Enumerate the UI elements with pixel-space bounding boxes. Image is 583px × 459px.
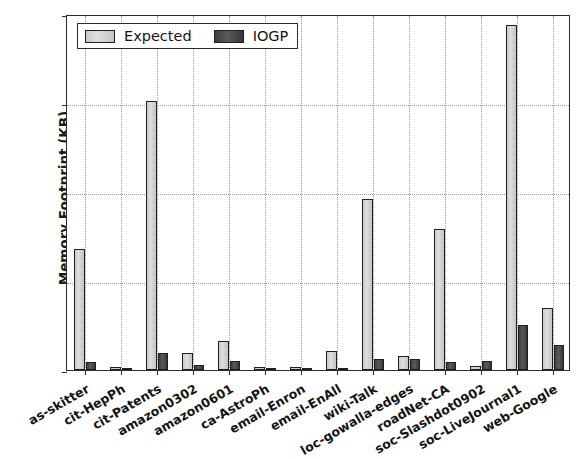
legend-swatch-expected (85, 30, 115, 43)
y-axis-tick (62, 372, 67, 373)
x-axis-tick (337, 370, 338, 375)
x-axis-tick (301, 370, 302, 375)
bar-expected (74, 249, 85, 370)
bar-iogp (86, 362, 97, 370)
bar-expected (146, 101, 157, 370)
gridline-vertical (337, 16, 338, 370)
bar-iogp (338, 368, 349, 370)
bar-iogp (230, 361, 241, 370)
bar-iogp (554, 345, 565, 370)
gridline-vertical (301, 16, 302, 370)
chart-legend: Expected IOGP (77, 23, 298, 49)
x-axis-tick (445, 370, 446, 375)
bar-expected (470, 366, 481, 370)
gridline-vertical (445, 16, 446, 370)
bar-expected (542, 308, 553, 370)
plot-area: Expected IOGP (66, 15, 570, 371)
x-axis-tick (373, 370, 374, 375)
gridline-vertical (229, 16, 230, 370)
bar-iogp (446, 362, 457, 370)
bar-expected (398, 356, 409, 370)
gridline-vertical (157, 16, 158, 370)
x-axis-tick (409, 370, 410, 375)
bar-iogp (158, 353, 169, 370)
x-axis-tick (193, 370, 194, 375)
gridline-vertical (121, 16, 122, 370)
gridline-vertical (85, 16, 86, 370)
gridline-horizontal (67, 105, 569, 106)
bar-iogp (122, 368, 133, 370)
bar-expected (110, 367, 121, 370)
x-axis-tick (553, 370, 554, 375)
gridline-vertical (553, 16, 554, 370)
bar-iogp (410, 359, 421, 370)
gridline-horizontal (67, 194, 569, 195)
legend-label-expected: Expected (124, 28, 192, 44)
bar-expected (326, 351, 337, 370)
legend-entry-expected: Expected (85, 28, 192, 44)
x-axis-tick (265, 370, 266, 375)
gridline-vertical (409, 16, 410, 370)
y-axis-tick (62, 105, 67, 106)
y-axis-tick (62, 194, 67, 195)
x-axis-tick (481, 370, 482, 375)
gridline-vertical (265, 16, 266, 370)
bar-iogp (374, 359, 385, 370)
bar-iogp (518, 325, 529, 370)
bar-expected (218, 341, 229, 370)
bar-expected (290, 367, 301, 370)
x-axis-tick (517, 370, 518, 375)
gridline-horizontal (67, 283, 569, 284)
x-axis-tick (229, 370, 230, 375)
bar-expected (254, 367, 265, 370)
bar-expected (506, 25, 517, 370)
bar-iogp (194, 365, 205, 370)
gridline-vertical (517, 16, 518, 370)
bar-iogp (302, 368, 313, 370)
bar-expected (182, 353, 193, 370)
legend-label-iogp: IOGP (253, 28, 289, 44)
gridline-vertical (373, 16, 374, 370)
y-axis-tick (62, 16, 67, 17)
x-axis-tick (121, 370, 122, 375)
y-axis-tick (62, 283, 67, 284)
bar-expected (434, 229, 445, 370)
x-axis-tick (85, 370, 86, 375)
gridline-vertical (193, 16, 194, 370)
gridline-vertical (481, 16, 482, 370)
legend-entry-iogp: IOGP (214, 28, 289, 44)
x-axis-tick (157, 370, 158, 375)
bar-iogp (266, 368, 277, 370)
bar-iogp (482, 361, 493, 370)
bar-expected (362, 199, 373, 370)
legend-swatch-iogp (214, 30, 244, 43)
